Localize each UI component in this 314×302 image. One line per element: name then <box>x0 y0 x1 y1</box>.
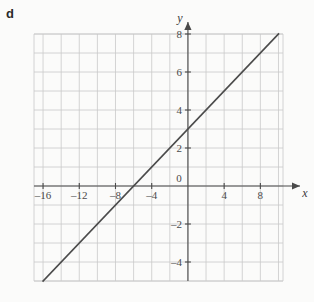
x-tick-label: 0 <box>176 172 182 184</box>
y-tick-label: 8 <box>176 28 182 40</box>
x-tick-label: –12 <box>70 189 88 201</box>
x-tick-label: –4 <box>145 189 158 201</box>
y-axis-arrow-icon <box>184 22 191 30</box>
x-tick-label: 8 <box>258 189 264 201</box>
graph-figure: d –16–12–8–4048 8642–2–4 x y <box>0 0 314 302</box>
x-tick-label: 4 <box>221 189 227 201</box>
y-axis-label: y <box>176 11 183 25</box>
y-tick-label: –2 <box>170 218 182 230</box>
x-tick-label: –8 <box>109 189 122 201</box>
y-tick-label: –4 <box>170 256 183 268</box>
x-tick-label: –16 <box>34 189 52 201</box>
y-tick-label: 6 <box>176 66 182 78</box>
plot-background <box>34 34 283 281</box>
x-axis-label: x <box>301 186 308 200</box>
coordinate-plane: –16–12–8–4048 8642–2–4 x y <box>0 0 314 302</box>
x-axis-arrow-icon <box>292 182 300 189</box>
y-tick-label: 2 <box>176 142 182 154</box>
y-tick-label: 4 <box>176 104 182 116</box>
